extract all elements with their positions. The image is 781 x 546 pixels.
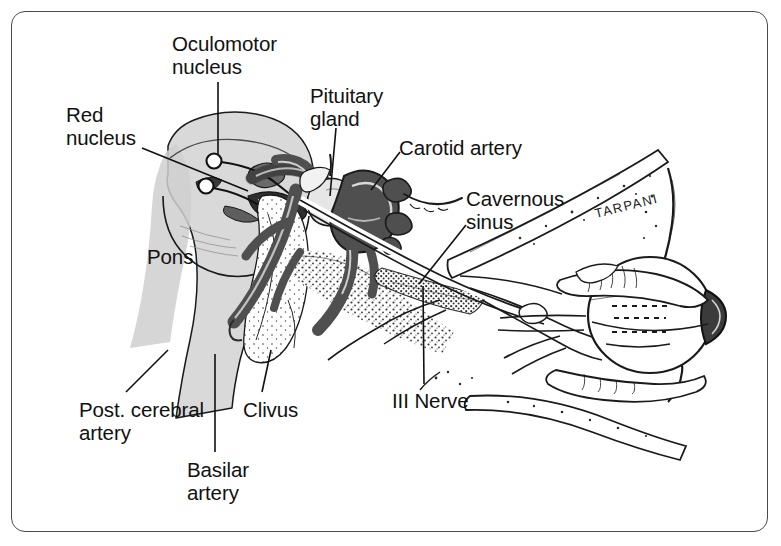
- label-basilar-artery: Basilar artery: [187, 458, 249, 504]
- label-carotid-artery: Carotid artery: [399, 136, 522, 159]
- label-cavernous-sinus: Cavernous sinus: [466, 187, 564, 233]
- label-post-cerebral-artery: Post. cerebral artery: [79, 398, 204, 444]
- label-pons: Pons: [147, 245, 193, 268]
- label-clivus: Clivus: [243, 398, 298, 421]
- oculomotor-nucleus-marker: [207, 154, 222, 169]
- red-nucleus-marker: [199, 179, 214, 194]
- leader-post-cerebral: [126, 350, 168, 392]
- label-oculomotor-nucleus: Oculomotor nucleus: [172, 32, 277, 78]
- label-pituitary-gland: Pituitary gland: [310, 84, 383, 130]
- leader-iii-nerve: [423, 286, 424, 384]
- anatomical-illustration: TARPANI: [0, 0, 781, 546]
- label-iii-nerve: III Nerve: [392, 389, 469, 412]
- label-red-nucleus: Red nucleus: [66, 103, 136, 149]
